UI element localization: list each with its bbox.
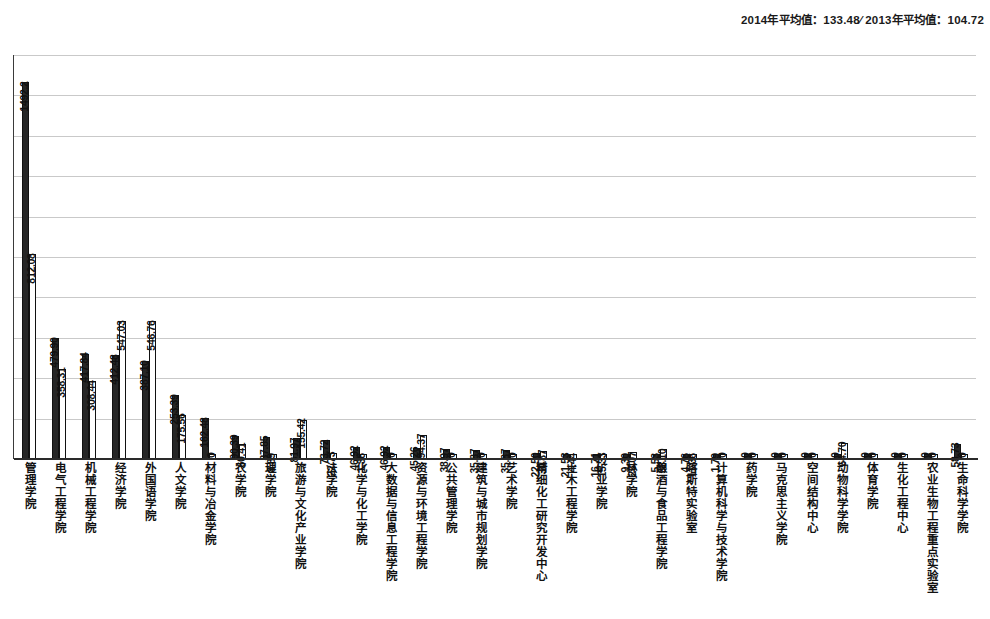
bar-group: 22.5030.87	[525, 55, 555, 459]
bar-group: 9.3026.07	[615, 55, 645, 459]
bar-group: 412.48547.03	[104, 55, 134, 459]
category-label-15: 建筑与城市规划学院	[465, 462, 495, 618]
bar-value-label: 412.48	[108, 354, 119, 384]
category-label-11: 化学与化工学院	[345, 462, 375, 618]
category-label-27: 动物科学学院	[826, 462, 856, 618]
bar-group: 46.921.36	[345, 55, 375, 459]
bar-group: 00	[856, 55, 886, 459]
category-label-19: 矿业学院	[585, 462, 615, 618]
category-label-4: 外国语学院	[134, 462, 164, 618]
bar-2013: 358.31	[59, 369, 66, 459]
category-label-text: 机械工程学院	[83, 462, 95, 534]
bar-value-label: 155.42	[296, 419, 307, 449]
bar-group: 21.534.44	[555, 55, 585, 459]
bar-group: 064.70	[826, 55, 856, 459]
bar-value-label: 358.31	[55, 368, 66, 398]
bar-2013: 812.08	[29, 254, 36, 459]
bar-group: 38.970	[435, 55, 465, 459]
category-label-30: 农业生物工程重点实验室	[916, 462, 946, 618]
bar-group: 162.480	[194, 55, 224, 459]
bar-group: 90.3960.41	[224, 55, 254, 459]
category-label-28: 体育学院	[856, 462, 886, 618]
bar-series-container: 1492.2812.08479.90358.31417.84308.44412.…	[14, 55, 976, 459]
category-label-18: 土木工程学院	[555, 462, 585, 618]
category-label-5: 人文学院	[164, 462, 194, 618]
bar-value-label: 1492.2	[18, 81, 29, 111]
category-label-text: 酿酒与食品工程学院	[654, 462, 666, 570]
category-label-25: 马克思主义学院	[766, 462, 796, 618]
bar-group: 00	[916, 55, 946, 459]
bar-2013: 64.70	[841, 443, 848, 459]
category-label-text: 体育学院	[865, 462, 877, 510]
bar-2014: 479.90	[52, 338, 59, 459]
bar-group: 00	[766, 55, 796, 459]
category-label-23: 计算机科学与技术学院	[705, 462, 735, 618]
bar-group: 81.97155.42	[285, 55, 315, 459]
category-label-3: 经济学院	[104, 462, 134, 618]
bar-group: 387.10546.76	[134, 55, 164, 459]
bar-group: 35.870	[465, 55, 495, 459]
bar-group: 00	[886, 55, 916, 459]
category-label-26: 空间结构中心	[796, 462, 826, 618]
category-label-text: 资源与环境工程学院	[414, 462, 426, 570]
bar-value-label: 547.03	[115, 320, 126, 350]
category-label-1: 电气工程学院	[44, 462, 74, 618]
category-label-text: 精细化工研究开发中心	[534, 462, 546, 582]
category-label-8: 理学院	[255, 462, 285, 618]
category-label-12: 大数据与信息工程学院	[375, 462, 405, 618]
bar-group: 58.730	[946, 55, 976, 459]
category-label-text: 大数据与信息工程学院	[384, 462, 396, 582]
category-label-10: 法学院	[315, 462, 345, 618]
category-label-21: 酿酒与食品工程学院	[645, 462, 675, 618]
category-label-text: 公共管理学院	[444, 462, 456, 534]
bar-2013: 308.44	[89, 381, 96, 459]
bar-group: 35.870	[495, 55, 525, 459]
bar-value-label: 162.48	[198, 417, 209, 447]
category-label-16: 艺术学院	[495, 462, 525, 618]
category-label-text: 喀斯特实验室	[685, 462, 697, 534]
bar-group: 417.84308.44	[74, 55, 104, 459]
category-label-31: 生命科学学院	[946, 462, 976, 618]
bar-2013: 547.03	[119, 321, 126, 459]
category-label-7: 农学院	[224, 462, 254, 618]
category-label-text: 旅游与文化产业学院	[294, 462, 306, 570]
category-label-6: 材料与冶金学院	[194, 462, 224, 618]
category-label-text: 空间结构中心	[805, 462, 817, 534]
category-label-text: 马克思主义学院	[775, 462, 787, 546]
bar-2013: 60.41	[239, 444, 246, 459]
bar-group: 73.7222.73	[315, 55, 345, 459]
category-label-text: 材料与冶金学院	[204, 462, 216, 546]
bar-group: 45.2694.37	[405, 55, 435, 459]
category-label-text: 农业生物工程重点实验室	[925, 462, 937, 594]
bar-value-label: 308.44	[85, 380, 96, 410]
category-label-text: 生命科学学院	[955, 462, 967, 534]
bar-group: 00	[796, 55, 826, 459]
bar-group: 00	[736, 55, 766, 459]
category-label-text: 土木工程学院	[564, 462, 576, 534]
category-label-17: 精细化工研究开发中心	[525, 462, 555, 618]
category-label-text: 经济学院	[113, 462, 125, 510]
bar-2013: 155.42	[300, 420, 307, 459]
x-axis-category-labels: 管理学院电气工程学院机械工程学院经济学院外国语学院人文学院材料与冶金学院农学院理…	[14, 462, 976, 618]
category-label-text: 动物科学学院	[835, 462, 847, 534]
bar-group: 479.90358.31	[44, 55, 74, 459]
bar-value-label: 417.84	[78, 353, 89, 383]
category-label-text: 人文学院	[173, 462, 185, 510]
category-label-text: 艺术学院	[504, 462, 516, 510]
bar-group: 1492.2812.08	[14, 55, 44, 459]
category-label-text: 生化工程中心	[895, 462, 907, 534]
bar-2014: 387.10	[142, 361, 149, 459]
bar-group: 46.920	[375, 55, 405, 459]
bar-value-label: 546.76	[145, 320, 156, 350]
category-label-text: 建筑与城市规划学院	[474, 462, 486, 570]
category-label-text: 管理学院	[23, 462, 35, 510]
category-label-20: 林学院	[615, 462, 645, 618]
category-label-24: 药学院	[736, 462, 766, 618]
category-label-text: 法学院	[324, 462, 336, 498]
category-label-text: 林学院	[624, 462, 636, 498]
bar-group: 87.858.89	[255, 55, 285, 459]
bar-2013: 94.37	[420, 435, 427, 459]
bar-group: 253.39175.56	[164, 55, 194, 459]
bar-value-label: 387.10	[138, 360, 149, 390]
plot-area: 1492.2812.08479.90358.31417.84308.44412.…	[14, 55, 976, 459]
